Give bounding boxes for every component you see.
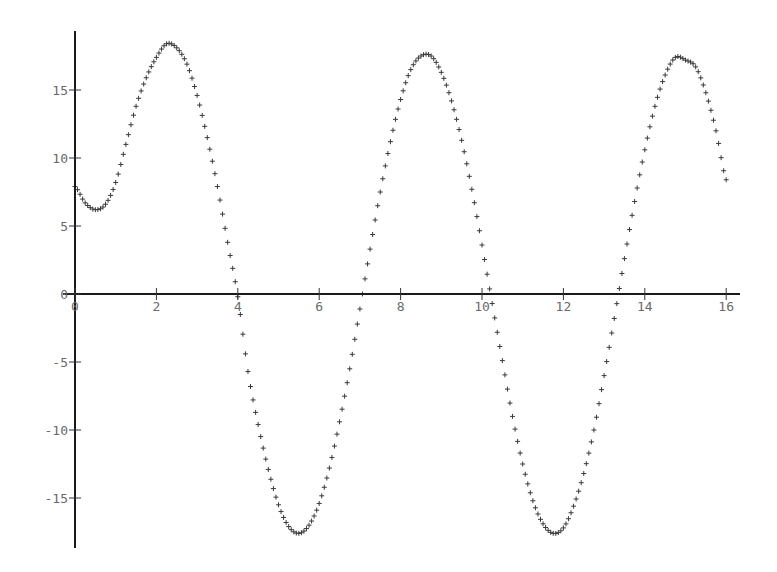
plus-marker — [230, 266, 235, 271]
plus-marker — [357, 306, 362, 311]
plus-marker — [131, 113, 136, 118]
plus-marker — [510, 414, 515, 419]
plus-marker — [240, 332, 245, 337]
plus-marker — [113, 180, 118, 185]
y-tick-label: 15 — [52, 83, 68, 98]
plus-marker — [128, 122, 133, 127]
plus-marker — [584, 461, 589, 466]
plus-marker — [177, 48, 182, 53]
plus-marker — [609, 331, 614, 336]
plus-marker — [263, 457, 268, 462]
plus-marker — [134, 104, 139, 109]
plus-marker — [261, 446, 266, 451]
plus-marker — [454, 117, 459, 122]
plus-marker — [708, 108, 713, 113]
plus-marker — [599, 387, 604, 392]
plus-marker — [566, 516, 571, 521]
plus-marker — [144, 75, 149, 80]
plus-marker — [296, 531, 301, 536]
plus-marker — [528, 490, 533, 495]
plus-marker — [396, 107, 401, 112]
plus-marker — [670, 58, 675, 63]
plus-marker — [505, 387, 510, 392]
plus-marker — [398, 97, 403, 102]
plus-marker — [182, 56, 187, 61]
plus-marker — [406, 73, 411, 78]
plus-marker — [190, 76, 195, 81]
plus-marker — [602, 373, 607, 378]
y-tick-label: -5 — [52, 355, 68, 370]
y-tick-label: 10 — [52, 151, 68, 166]
plus-marker — [380, 176, 385, 181]
plus-marker — [632, 199, 637, 204]
plus-marker — [446, 90, 451, 95]
plus-marker — [126, 132, 131, 137]
plus-marker — [597, 401, 602, 406]
plus-marker — [698, 75, 703, 80]
plus-marker — [317, 501, 322, 506]
plus-marker — [535, 511, 540, 516]
plus-marker — [541, 521, 546, 526]
plus-marker — [576, 489, 581, 494]
plus-marker — [286, 524, 291, 529]
plus-marker — [617, 286, 622, 291]
plus-marker — [151, 59, 156, 64]
plus-marker — [502, 372, 507, 377]
plus-marker — [281, 515, 286, 520]
plus-marker — [324, 476, 329, 481]
plus-marker — [337, 419, 342, 424]
plus-marker — [444, 83, 449, 88]
plus-marker — [607, 345, 612, 350]
plus-marker — [581, 471, 586, 476]
plus-marker — [243, 351, 248, 356]
plus-marker — [507, 401, 512, 406]
plus-marker — [673, 55, 678, 60]
plus-marker — [571, 504, 576, 509]
plus-marker — [706, 99, 711, 104]
plus-marker — [383, 163, 388, 168]
plus-marker — [78, 192, 83, 197]
plus-marker — [123, 142, 128, 147]
plus-marker — [561, 525, 566, 530]
plus-marker — [619, 271, 624, 276]
plus-marker — [413, 58, 418, 63]
plus-marker — [253, 410, 258, 415]
plus-marker — [352, 337, 357, 342]
plus-marker — [408, 67, 413, 72]
plus-marker — [342, 394, 347, 399]
plus-marker — [370, 232, 375, 237]
plus-marker — [459, 138, 464, 143]
plus-marker — [347, 366, 352, 371]
plus-marker — [663, 73, 668, 78]
plus-marker — [205, 135, 210, 140]
plus-marker — [149, 64, 154, 69]
plus-marker — [159, 47, 164, 52]
plus-marker — [184, 62, 189, 67]
plus-marker — [106, 198, 111, 203]
plus-marker — [693, 64, 698, 69]
plus-marker — [612, 316, 617, 321]
plus-marker — [322, 485, 327, 490]
plus-marker — [553, 531, 558, 536]
plus-marker — [439, 70, 444, 75]
plus-marker — [665, 67, 670, 72]
plus-marker — [378, 190, 383, 195]
plus-marker — [686, 59, 691, 64]
plus-marker — [228, 253, 233, 258]
plus-marker — [622, 256, 627, 261]
plus-marker — [258, 434, 263, 439]
plus-marker — [174, 45, 179, 50]
scatter-plot: 0246810121416 -15-10-5051015 — [0, 0, 777, 572]
x-tick-label: 0 — [71, 299, 79, 314]
plus-marker — [594, 415, 599, 420]
plus-marker — [652, 104, 657, 109]
plus-marker — [329, 455, 334, 460]
x-tick-label: 14 — [637, 299, 653, 314]
plus-marker — [179, 52, 184, 57]
plus-marker — [271, 486, 276, 491]
plus-marker — [245, 369, 250, 374]
plus-marker — [154, 55, 159, 60]
plus-marker — [327, 466, 332, 471]
plus-marker — [268, 477, 273, 482]
y-tick-label: 5 — [60, 219, 68, 234]
